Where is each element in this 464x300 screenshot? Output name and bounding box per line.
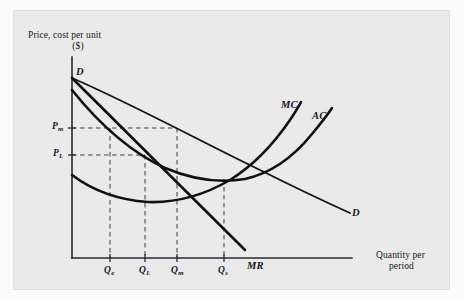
quantity-tick-qm: Qm — [171, 265, 183, 276]
quantity-tick-qs: Qs — [218, 265, 228, 276]
quantity-tick-qe-base: Q — [104, 265, 111, 275]
price-tick-pm-base: P — [52, 121, 58, 131]
figure-root: .axis-line { stroke: #2a2a2e; stroke-wid… — [0, 0, 464, 300]
quantity-tick-qm-base: Q — [171, 265, 178, 275]
quantity-tick-ql-base: Q — [139, 265, 146, 275]
marginal-cost-label: MC — [281, 99, 298, 111]
price-tick-pl-sub: L — [59, 152, 63, 159]
average-cost-label: AC — [312, 110, 326, 122]
quantity-tick-qm-sub: m — [178, 269, 183, 276]
quantity-tick-ql: QL — [139, 265, 150, 276]
quantity-tick-qs-sub: s — [225, 269, 228, 276]
demand-curve — [72, 78, 350, 213]
price-tick-pm-sub: m — [58, 125, 63, 132]
marginal-revenue-label: MR — [247, 260, 264, 272]
x-axis-title-line2: period — [389, 261, 414, 272]
price-tick-pm: Pm — [52, 121, 63, 132]
marginal-cost-curve — [72, 102, 301, 202]
demand-end-label: D — [352, 207, 360, 219]
x-axis-title-line1: Quantity per — [376, 250, 425, 261]
quantity-tick-qe: Qe — [104, 265, 114, 276]
y-axis-title-line2: ($) — [28, 41, 128, 52]
quantity-tick-qs-base: Q — [218, 265, 225, 275]
price-tick-pl: PL — [53, 148, 63, 159]
y-axis-title-line1: Price, cost per unit — [28, 30, 101, 41]
quantity-tick-ql-sub: L — [146, 269, 150, 276]
demand-origin-label: D — [76, 66, 84, 78]
quantity-tick-qe-sub: e — [111, 269, 114, 276]
price-tick-pl-base: P — [53, 148, 59, 158]
